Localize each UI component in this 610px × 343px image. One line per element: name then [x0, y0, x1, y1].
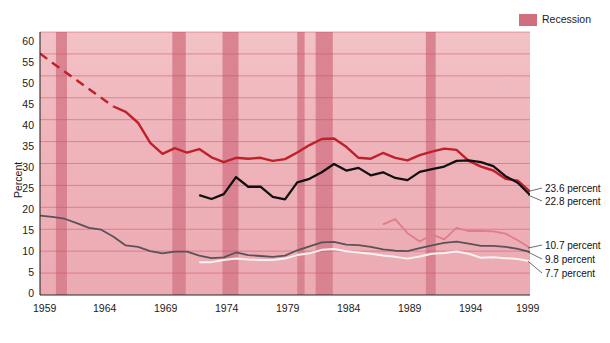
poverty-rate-chart: Recession Percent 0 5 10 15 20 25 30 35 …	[0, 0, 610, 343]
leader-line-3	[528, 252, 542, 259]
leader-line-2	[528, 245, 542, 248]
chart-canvas	[0, 0, 610, 343]
leader-line-1	[528, 195, 542, 201]
leader-line-4	[528, 261, 542, 273]
leader-line-0	[528, 188, 542, 192]
end-label-leader-lines	[528, 188, 542, 273]
